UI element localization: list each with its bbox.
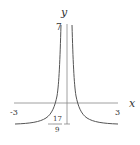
x-min-label: -3: [10, 108, 18, 117]
asymptote-numerator: 17: [53, 115, 62, 123]
graph: y 7 x -3 3 17 9: [0, 0, 140, 145]
y-axis-label: y: [60, 6, 68, 19]
x-axis-label: x: [129, 97, 136, 110]
asymptote-denominator: 9: [55, 126, 59, 134]
x-max-label: 3: [115, 108, 120, 117]
curve-right-branch: [72, 25, 118, 124]
curve-left-branch: [15, 25, 61, 124]
y-top-label: 7: [56, 22, 62, 32]
